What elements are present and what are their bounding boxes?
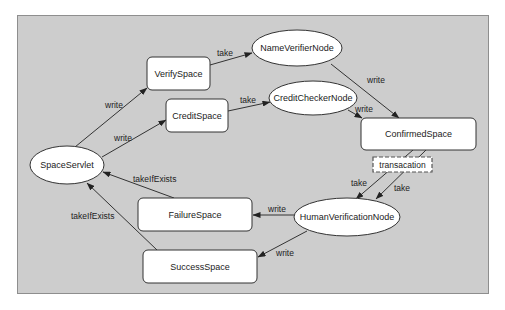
edge-label: write (354, 104, 373, 114)
node-success-space[interactable]: SuccessSpace (143, 250, 257, 283)
edge-label: write (113, 133, 132, 143)
edge-human-verification-node-to-failure-space: write (253, 204, 294, 215)
node-label: ConfirmedSpace (385, 129, 452, 139)
edge-label: write (366, 75, 385, 85)
edge-label: take (217, 48, 233, 58)
edge-label: takeIfExists (133, 174, 176, 184)
node-human-verification-node[interactable]: HumanVerificationNode (294, 198, 400, 236)
edge-credit-space-to-credit-checker-node: take (228, 95, 270, 111)
node-label: CreditCheckerNode (273, 93, 352, 103)
edge-space-servlet-to-verify-space: write (75, 88, 147, 147)
transaction-annotation: transacation (373, 157, 432, 172)
edge-failure-space-to-space-servlet: takeIfExists (103, 172, 176, 198)
node-label: SuccessSpace (170, 262, 230, 272)
edge-label: takeIfExists (71, 211, 114, 221)
node-label: HumanVerificationNode (300, 212, 395, 222)
edge-label: take (240, 95, 256, 105)
edge-verify-space-to-name-verifier-node: take (210, 48, 252, 65)
node-label: CreditSpace (172, 111, 222, 121)
edge-space-servlet-to-credit-space: write (102, 120, 166, 157)
diagram-svg: writewritetaketakewritewritetaketakewrit… (0, 0, 505, 310)
edge-label: write (267, 204, 286, 214)
node-failure-space[interactable]: FailureSpace (138, 198, 252, 231)
node-name-verifier-node[interactable]: NameVerifierNode (252, 30, 342, 66)
node-label: NameVerifierNode (260, 43, 334, 53)
node-credit-space[interactable]: CreditSpace (166, 99, 228, 132)
edge-label: write (275, 248, 294, 258)
node-label: VerifySpace (154, 69, 202, 79)
node-credit-checker-node[interactable]: CreditCheckerNode (269, 81, 357, 115)
node-label: FailureSpace (168, 210, 221, 220)
edge-arrow (102, 120, 166, 157)
node-label: SpaceServlet (40, 160, 94, 170)
edge-human-verification-node-to-success-space: write (258, 231, 307, 258)
edge-label: take (394, 183, 410, 193)
edge-label: write (104, 100, 123, 110)
node-verify-space[interactable]: VerifySpace (147, 57, 210, 90)
edge-label: take (351, 178, 367, 188)
diagram-canvas: writewritetaketakewritewritetaketakewrit… (0, 0, 505, 310)
node-space-servlet[interactable]: SpaceServlet (30, 146, 104, 184)
annotation-label: transacation (379, 160, 426, 170)
edge-arrow (75, 88, 147, 147)
annotation-layer: transacation (373, 157, 432, 172)
node-confirmed-space[interactable]: ConfirmedSpace (361, 118, 476, 150)
